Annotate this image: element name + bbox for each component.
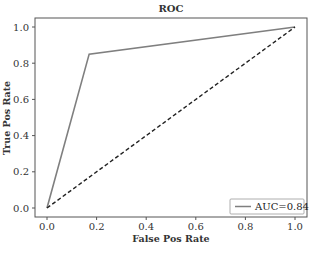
legend-entry: AUC=0.84: [254, 201, 309, 212]
x-tick-label: 0.4: [138, 221, 154, 232]
chart-title: ROC: [159, 3, 184, 14]
x-tick-label: 0.8: [237, 221, 253, 232]
y-tick-label: 0.8: [13, 58, 29, 69]
y-tick-label: 1.0: [13, 22, 29, 33]
y-axis-label: True Pos Rate: [1, 81, 12, 155]
x-axis-label: False Pos Rate: [132, 233, 209, 244]
x-tick-label: 0.6: [188, 221, 204, 232]
plot-series: [47, 27, 295, 208]
y-tick-label: 0.4: [13, 130, 29, 141]
x-tick-label: 0.2: [89, 221, 105, 232]
x-tick-label: 1.0: [287, 221, 303, 232]
y-tick-label: 0.0: [13, 203, 29, 214]
roc-chart: ROC 0.00.20.40.60.81.0 0.00.20.40.60.81.…: [0, 0, 311, 261]
y-tick-label: 0.2: [13, 166, 29, 177]
y-axis: 0.00.20.40.60.81.0: [13, 22, 35, 214]
chance-line: [47, 27, 295, 208]
x-axis: 0.00.20.40.60.81.0: [39, 217, 303, 232]
y-tick-label: 0.6: [13, 94, 29, 105]
x-tick-label: 0.0: [39, 221, 55, 232]
legend: AUC=0.84: [230, 199, 309, 214]
